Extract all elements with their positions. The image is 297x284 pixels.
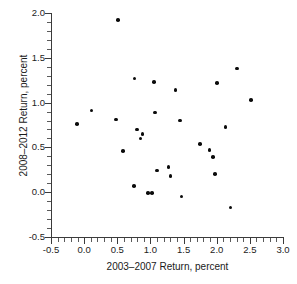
x-tick-label: 3.0 <box>263 245 297 255</box>
x-tick-minor <box>64 238 65 242</box>
y-tick-minor <box>47 165 51 166</box>
data-point <box>121 149 125 153</box>
y-tick-label: 1.5 <box>32 53 45 63</box>
y-tick-minor <box>47 31 51 32</box>
x-tick-minor <box>223 238 224 242</box>
y-tick-minor <box>47 210 51 211</box>
y-tick-minor <box>47 112 51 113</box>
x-tick-minor <box>177 238 178 242</box>
data-point <box>249 98 253 102</box>
y-tick-minor <box>47 76 51 77</box>
x-tick-minor <box>190 238 191 242</box>
plot-data-area <box>51 13 283 237</box>
scatter-plot-figure: -0.50.00.51.01.52.0 -0.50.00.51.01.52.02… <box>0 0 297 284</box>
data-point <box>169 174 173 178</box>
y-tick-label: 0.5 <box>32 142 45 152</box>
x-tick-minor <box>124 238 125 242</box>
x-tick-minor <box>237 238 238 242</box>
x-tick-minor <box>131 238 132 242</box>
x-tick-minor <box>170 238 171 242</box>
data-point <box>208 148 212 152</box>
x-tick-minor <box>58 238 59 242</box>
data-point <box>132 184 136 188</box>
x-tick-minor <box>91 238 92 242</box>
x-tick-minor <box>203 238 204 242</box>
x-tick-minor <box>164 238 165 242</box>
y-tick-major <box>45 13 51 14</box>
y-tick-major <box>45 103 51 104</box>
y-tick-label: 0.0 <box>32 187 45 197</box>
y-tick-minor <box>47 85 51 86</box>
data-point <box>116 18 120 22</box>
x-tick-minor <box>230 238 231 242</box>
x-tick-minor <box>243 238 244 242</box>
y-tick-minor <box>47 22 51 23</box>
y-axis-title: 2008–2012 Return, percent <box>18 36 29 196</box>
x-tick-minor <box>78 238 79 242</box>
x-tick-minor <box>270 238 271 242</box>
data-point <box>215 81 219 85</box>
data-point <box>167 165 171 169</box>
x-tick-minor <box>71 238 72 242</box>
y-tick-minor <box>47 219 51 220</box>
x-tick-minor <box>137 238 138 242</box>
y-tick-minor <box>47 40 51 41</box>
y-tick-major <box>45 192 51 193</box>
y-tick-minor <box>47 121 51 122</box>
y-tick-major <box>45 147 51 148</box>
x-tick-minor <box>263 238 264 242</box>
data-point <box>213 172 217 176</box>
y-tick-label: 1.0 <box>32 98 45 108</box>
data-point <box>75 122 79 126</box>
x-tick-minor <box>276 238 277 242</box>
y-tick-minor <box>47 94 51 95</box>
y-tick-minor <box>47 138 51 139</box>
y-tick-minor <box>47 201 51 202</box>
data-point <box>152 80 156 84</box>
data-point <box>153 111 157 115</box>
y-tick-label: -0.5 <box>29 232 45 242</box>
x-tick-minor <box>210 238 211 242</box>
data-point <box>141 132 145 136</box>
x-tick-minor <box>97 238 98 242</box>
x-tick-minor <box>197 238 198 242</box>
y-tick-minor <box>47 67 51 68</box>
x-tick-minor <box>111 238 112 242</box>
y-tick-minor <box>47 156 51 157</box>
data-point <box>198 142 202 146</box>
x-tick-minor <box>256 238 257 242</box>
y-tick-major <box>45 58 51 59</box>
x-tick-minor <box>104 238 105 242</box>
x-axis-title: 2003–2007 Return, percent <box>51 261 284 272</box>
y-tick-minor <box>47 174 51 175</box>
data-point <box>224 125 228 129</box>
y-tick-minor <box>47 49 51 50</box>
data-point <box>211 155 215 159</box>
x-tick-minor <box>157 238 158 242</box>
data-point <box>150 191 154 195</box>
y-tick-minor <box>47 129 51 130</box>
y-tick-label: 2.0 <box>32 8 45 18</box>
y-tick-minor <box>47 183 51 184</box>
y-axis-line <box>51 13 52 238</box>
y-tick-minor <box>47 228 51 229</box>
x-tick-minor <box>144 238 145 242</box>
